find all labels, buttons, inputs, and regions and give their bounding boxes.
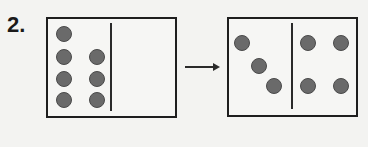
counter [89, 92, 105, 108]
counter [251, 58, 267, 74]
after-box-divider [291, 23, 293, 109]
counter [333, 35, 349, 51]
arrow-right-icon [185, 66, 215, 68]
problem-number: 2. [7, 14, 25, 36]
counter [56, 71, 72, 87]
counter [234, 35, 250, 51]
counter [89, 71, 105, 87]
counter [333, 78, 349, 94]
counter [266, 78, 282, 94]
counter [56, 26, 72, 42]
counter [56, 49, 72, 65]
counter [300, 35, 316, 51]
before-box-divider [110, 23, 112, 111]
counter [89, 49, 105, 65]
counter [300, 78, 316, 94]
arrow-head-icon [213, 63, 220, 71]
counter [56, 92, 72, 108]
